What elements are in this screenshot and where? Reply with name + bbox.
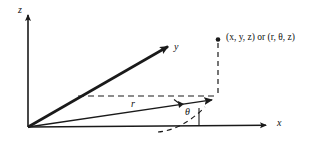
cylindrical-coordinates-figure: z y x r θ (x, y, z) or (r, θ, z) bbox=[0, 0, 320, 146]
theta-arrowhead bbox=[178, 101, 184, 108]
radius-label: r bbox=[131, 99, 135, 109]
angle-label: θ bbox=[185, 107, 190, 117]
angle-arc bbox=[158, 107, 205, 132]
x-axis-label: x bbox=[277, 118, 281, 128]
y-axis bbox=[28, 47, 168, 128]
y-axis-label: y bbox=[174, 42, 178, 52]
x-axis bbox=[28, 125, 266, 127]
point-coordinates-label: (x, y, z) or (r, θ, z) bbox=[226, 33, 295, 43]
z-axis-label: z bbox=[18, 5, 22, 15]
point-marker bbox=[216, 37, 221, 42]
diagram-canvas bbox=[0, 0, 320, 146]
